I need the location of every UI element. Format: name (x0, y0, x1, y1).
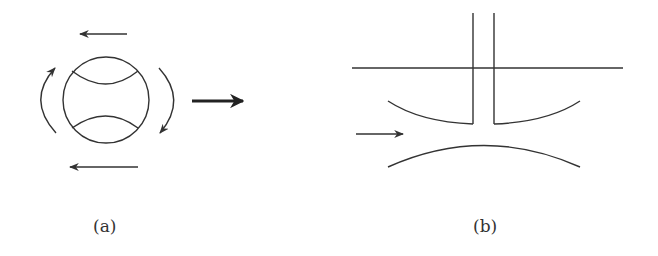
upper-right-curve (494, 101, 580, 124)
panel-b (352, 13, 623, 167)
upper-left-curve (388, 101, 473, 124)
ball-bottom-seam (72, 116, 138, 128)
panel-a (41, 34, 243, 167)
ball (63, 57, 149, 143)
ball-top-seam (72, 71, 138, 84)
lower-curve (388, 146, 580, 168)
panel-a-label: (a) (93, 216, 116, 236)
left-rotation-arrow (41, 68, 56, 133)
right-rotation-arrow (159, 68, 174, 133)
panel-b-label: (b) (473, 216, 497, 236)
